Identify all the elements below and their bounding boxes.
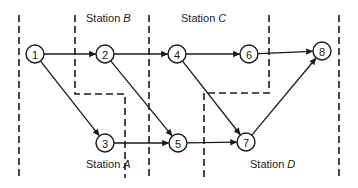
task-node-1: 1 xyxy=(26,45,44,63)
task-node-3: 3 xyxy=(96,134,114,152)
node-label: 6 xyxy=(246,49,252,61)
node-label: 5 xyxy=(175,138,181,150)
boundary-c-d-line xyxy=(204,15,269,178)
station-a-label: Station A xyxy=(86,158,131,170)
task-node-6: 6 xyxy=(240,45,258,63)
precedence-edges xyxy=(41,51,316,143)
station-boundaries xyxy=(19,15,339,178)
node-label: 1 xyxy=(32,49,38,61)
node-label: 2 xyxy=(102,49,108,61)
node-label: 3 xyxy=(102,138,108,150)
station-d-label: Station D xyxy=(250,158,295,170)
edge-2-to-5-arrow xyxy=(111,61,172,136)
task-node-8: 8 xyxy=(313,42,331,60)
precedence-diagram: 12345678 Station AStation BStation CStat… xyxy=(0,0,358,188)
boundary-a-b-line xyxy=(75,15,125,178)
task-nodes: 12345678 xyxy=(26,42,331,152)
node-label: 4 xyxy=(174,49,180,61)
edge-4-to-7-arrow xyxy=(183,61,241,134)
station-labels: Station AStation BStation CStation D xyxy=(86,12,295,170)
node-label: 8 xyxy=(319,46,325,58)
node-label: 7 xyxy=(243,137,249,149)
edge-6-to-8-arrow xyxy=(258,51,313,53)
station-c-label: Station C xyxy=(181,12,226,24)
task-node-4: 4 xyxy=(168,45,186,63)
task-node-5: 5 xyxy=(169,134,187,152)
task-node-7: 7 xyxy=(237,133,255,151)
edge-7-to-8-arrow xyxy=(252,58,316,135)
edge-5-to-7-arrow xyxy=(187,142,237,143)
edge-1-to-3-arrow xyxy=(41,61,100,135)
task-node-2: 2 xyxy=(96,45,114,63)
station-b-label: Station B xyxy=(86,12,131,24)
